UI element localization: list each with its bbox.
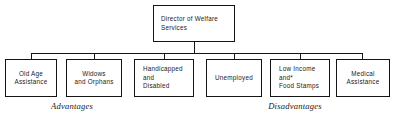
node-handicapped-and-disabled[interactable]: Handicapped and Disabled bbox=[134, 59, 194, 97]
node-label: Medical Assistance bbox=[341, 70, 385, 87]
connector-horizontal-bus bbox=[31, 53, 363, 54]
connector-root-stem bbox=[194, 42, 195, 53]
node-label: Widows and Orphans bbox=[71, 70, 117, 87]
caption-disadvantages: Disadvantages bbox=[243, 101, 347, 111]
node-label: Low Income and* Food Stamps bbox=[275, 65, 325, 90]
org-chart-diagram: Director of Welfare Services Old Age Ass… bbox=[0, 0, 396, 117]
node-old-age-assistance[interactable]: Old Age Assistance bbox=[5, 59, 57, 97]
caption-advantages: Advantages bbox=[22, 101, 122, 111]
node-director-of-welfare-services[interactable]: Director of Welfare Services bbox=[153, 5, 235, 42]
node-unemployed[interactable]: Unemployed bbox=[206, 59, 262, 97]
node-low-income-and-food-stamps[interactable]: Low Income and* Food Stamps bbox=[270, 59, 330, 97]
node-widows-and-orphans[interactable]: Widows and Orphans bbox=[66, 59, 122, 97]
node-label: Handicapped and Disabled bbox=[139, 65, 189, 90]
node-medical-assistance[interactable]: Medical Assistance bbox=[336, 59, 390, 97]
node-label: Director of Welfare Services bbox=[158, 15, 230, 32]
node-label: Old Age Assistance bbox=[10, 70, 52, 87]
node-label: Unemployed bbox=[211, 74, 257, 82]
